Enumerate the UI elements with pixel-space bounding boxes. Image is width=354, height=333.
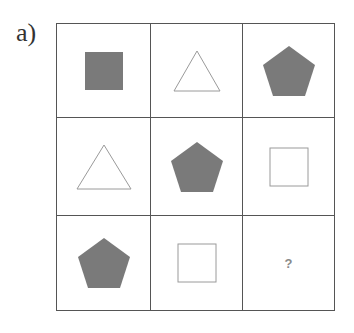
cell-r3-c2 bbox=[151, 216, 243, 310]
puzzle-grid: ? bbox=[56, 23, 335, 311]
cell-r1-c1 bbox=[57, 24, 151, 118]
filled-square-icon bbox=[84, 51, 124, 91]
cell-r3-c3: ? bbox=[243, 216, 334, 310]
cell-r3-c1 bbox=[57, 216, 151, 310]
question-mark: ? bbox=[285, 256, 293, 271]
filled-pentagon-icon bbox=[169, 140, 225, 194]
cell-r1-c2 bbox=[151, 24, 243, 118]
cell-r2-c1 bbox=[57, 118, 151, 216]
outline-square-icon bbox=[177, 243, 217, 283]
cell-r2-c3 bbox=[243, 118, 334, 216]
outline-triangle-icon bbox=[75, 143, 133, 191]
puzzle-label: a) bbox=[16, 18, 36, 48]
filled-pentagon-icon bbox=[261, 44, 317, 98]
cell-r1-c3 bbox=[243, 24, 334, 118]
filled-pentagon-icon bbox=[76, 236, 132, 290]
outline-square-icon bbox=[269, 147, 309, 187]
cell-r2-c2 bbox=[151, 118, 243, 216]
outline-triangle-icon bbox=[172, 49, 222, 93]
